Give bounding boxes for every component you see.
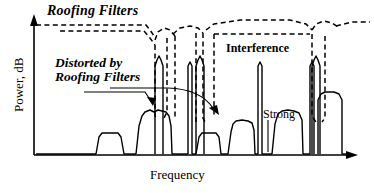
interference-label: Interference bbox=[226, 42, 289, 55]
spectrum-figure: Roofing Filters Power, dB Frequency Dist… bbox=[0, 0, 374, 193]
callout-arrow-1-line bbox=[84, 92, 151, 101]
y-axis-arrowhead bbox=[30, 14, 38, 26]
axes bbox=[30, 14, 358, 159]
signal-block-6 bbox=[318, 92, 342, 154]
distorted-by-roofing-filters-label: Distorted by Roofing Filters bbox=[55, 56, 140, 84]
strong-spike-6 bbox=[312, 56, 320, 154]
callout-line-2: Roofing Filters bbox=[55, 70, 140, 84]
received-spectrum-right bbox=[155, 56, 320, 154]
envelope-notch-4-right bbox=[322, 36, 325, 122]
strong-spike-2 bbox=[258, 62, 262, 154]
envelope-hump-1 bbox=[155, 28, 175, 40]
envelope-roof-2 bbox=[206, 20, 312, 30]
y-axis-label: Power, dB bbox=[12, 45, 26, 125]
callout-arrow-2-line bbox=[110, 88, 213, 108]
strong-spike-4 bbox=[155, 56, 163, 154]
x-axis-arrowhead bbox=[346, 151, 358, 159]
signal-block-1 bbox=[96, 133, 124, 154]
x-axis-label: Frequency bbox=[150, 168, 205, 182]
signal-block-2 bbox=[136, 110, 172, 154]
envelope-hump-3 bbox=[312, 21, 338, 30]
envelope-roof-1b bbox=[60, 31, 155, 45]
envelope-hump-2 bbox=[173, 26, 203, 34]
envelope-notch-1-right bbox=[164, 38, 167, 118]
strong-label: Strong bbox=[263, 108, 295, 121]
callout-line-1: Distorted by bbox=[55, 55, 122, 70]
envelope-roof-3 bbox=[336, 22, 370, 26]
signal-block-3 bbox=[196, 133, 221, 154]
signal-block-4 bbox=[228, 120, 255, 154]
spectrum-plot bbox=[0, 0, 374, 193]
roofing-filters-label: Roofing Filters bbox=[47, 4, 138, 19]
strong-spike-1 bbox=[188, 62, 192, 154]
